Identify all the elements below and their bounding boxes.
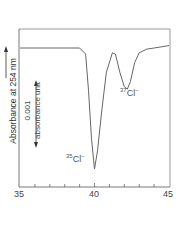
peak2-charge: − — [135, 87, 139, 93]
peak2-mass: 37 — [120, 87, 127, 93]
peak2-ion: Cl — [127, 88, 136, 98]
scale-arrow-down-icon — [34, 142, 38, 148]
peak-label-37cl: 37Cl− — [120, 87, 139, 98]
peak1-ion: Cl — [73, 154, 82, 164]
absorbance-trace — [20, 46, 169, 169]
peak1-mass: 35 — [66, 153, 73, 159]
y-axis-label: Absorbance at 254 nm — [8, 46, 18, 156]
x-tick-label-35: 35 — [14, 189, 24, 199]
x-tick-label-40: 40 — [89, 189, 99, 199]
peak1-charge: − — [81, 153, 85, 159]
x-tick-label-45: 45 — [163, 189, 173, 199]
scale-unit: absorbance unit — [33, 81, 42, 141]
x-axis-ticks — [35, 183, 154, 187]
peak-label-35cl: 35Cl− — [66, 153, 85, 164]
scale-value: 0.001 — [23, 81, 32, 141]
